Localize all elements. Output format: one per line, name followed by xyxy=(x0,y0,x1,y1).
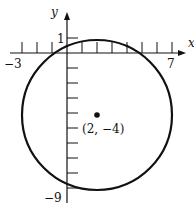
y-axis-arrow-icon xyxy=(64,12,70,20)
x-axis-label: x xyxy=(188,36,194,50)
y-max-label: 1 xyxy=(57,32,65,46)
y-ticks xyxy=(67,38,78,188)
x-max-label: 7 xyxy=(167,57,175,71)
x-ticks xyxy=(22,42,172,53)
circle-graph: y x −3 7 1 −9 (2, −4) xyxy=(0,0,194,203)
x-min-label: −3 xyxy=(4,57,22,71)
center-label: (2, −4) xyxy=(82,122,124,136)
y-min-label: −9 xyxy=(44,191,62,203)
center-point xyxy=(94,112,100,118)
x-axis-arrow-icon xyxy=(178,50,186,56)
y-axis-label: y xyxy=(50,5,58,19)
